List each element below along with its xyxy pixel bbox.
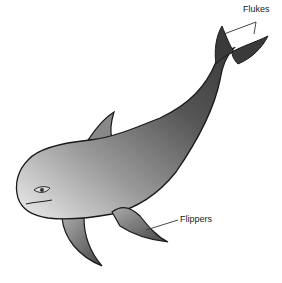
flukes-leader-2 <box>254 22 256 34</box>
label-flukes: Flukes <box>243 4 270 14</box>
fluke-right <box>232 36 268 64</box>
rear-flipper <box>62 218 102 266</box>
whale-body <box>16 48 234 219</box>
front-flipper <box>112 208 168 242</box>
label-flippers: Flippers <box>180 214 212 224</box>
flippers-leader <box>146 220 178 230</box>
whale-illustration <box>0 0 282 283</box>
flukes-leader-1 <box>224 22 256 34</box>
whale-diagram: Flukes Flippers <box>0 0 282 283</box>
